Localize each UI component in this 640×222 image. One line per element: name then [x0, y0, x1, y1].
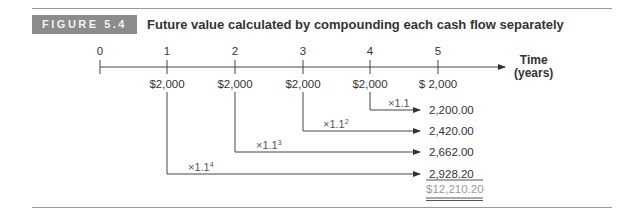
cash-flow-year-1: $2,000 — [149, 78, 184, 91]
tick-label-4: 4 — [367, 45, 373, 58]
cash-flow-year-4: $2,000 — [352, 78, 387, 91]
cash-flow-year-3: $2,000 — [285, 78, 320, 91]
time-axis-label: Time (years) — [514, 54, 553, 80]
future-value-year-2: 2,662.00 — [429, 146, 474, 159]
time-axis-label-line2: (years) — [514, 67, 553, 80]
cash-flow-year-5: $ 2,000 — [419, 78, 457, 91]
multiplier-year-3: ×1.12 — [323, 118, 349, 130]
tick-label-3: 3 — [300, 45, 306, 58]
future-value-year-4: 2,200.00 — [429, 104, 474, 117]
tick-label-5: 5 — [435, 45, 441, 58]
multiplier-year-2: ×1.13 — [256, 139, 282, 151]
future-value-year-1: 2,928.20 — [429, 168, 474, 181]
tick-label-1: 1 — [164, 45, 170, 58]
tick-label-0: 0 — [97, 45, 103, 58]
timeline-diagram — [0, 0, 640, 222]
multiplier-year-4: ×1.1 — [388, 97, 410, 109]
total-future-value: $12,210.20 — [426, 183, 484, 196]
cash-flow-year-2: $2,000 — [217, 78, 252, 91]
future-value-year-3: 2,420.00 — [429, 125, 474, 138]
tick-label-2: 2 — [232, 45, 238, 58]
multiplier-year-1: ×1.14 — [188, 161, 214, 173]
bottom-rule — [32, 207, 612, 208]
